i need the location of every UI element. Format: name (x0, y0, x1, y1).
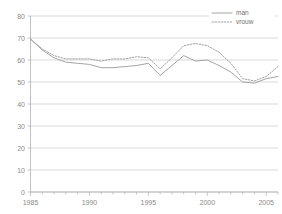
y-tick-label-40: 40 (17, 101, 25, 108)
y-tick-label-80: 80 (17, 13, 25, 20)
gridlines (31, 16, 279, 192)
y-tick-label-10: 10 (17, 167, 25, 174)
x-axis: 19851990199520002005 (23, 192, 278, 206)
data-series (31, 39, 279, 83)
y-tick-label-60: 60 (17, 57, 25, 64)
legend-label-man: man (236, 9, 249, 16)
x-tick-label-1985: 1985 (23, 199, 39, 206)
y-tick-label-0: 0 (21, 189, 25, 196)
line-chart: 01020304050607080 19851990199520002005 m… (0, 0, 282, 214)
legend-label-vrouw: vrouw (236, 18, 254, 25)
x-tick-label-1990: 1990 (82, 199, 98, 206)
chart-legend: manvrouw (209, 7, 275, 29)
y-axis: 01020304050607080 (17, 13, 30, 196)
y-tick-label-70: 70 (17, 35, 25, 42)
x-tick-label-2000: 2000 (199, 199, 215, 206)
chart-container: 01020304050607080 19851990199520002005 m… (0, 0, 282, 214)
y-tick-label-20: 20 (17, 145, 25, 152)
x-tick-label-1995: 1995 (141, 199, 157, 206)
x-tick-label-2005: 2005 (258, 199, 274, 206)
y-tick-label-50: 50 (17, 79, 25, 86)
y-tick-label-30: 30 (17, 123, 25, 130)
